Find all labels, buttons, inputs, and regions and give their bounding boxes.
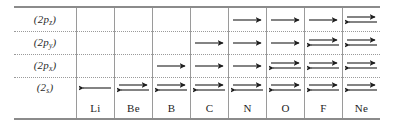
orbital-cell-b-2px xyxy=(153,54,190,77)
orbital-cell-ne-2pz xyxy=(343,8,380,31)
orbital-cell-be-2s xyxy=(115,77,152,98)
paired-electrons-icon xyxy=(305,77,342,98)
arrow-group xyxy=(155,12,189,28)
orbital-label-2py: (2py) xyxy=(34,36,57,50)
orbital-cell-b-2s xyxy=(153,77,190,98)
orbital-cell-f-2pz xyxy=(305,8,342,31)
paired-electrons-icon xyxy=(229,77,266,98)
element-symbol-cell-li: Li xyxy=(77,98,114,118)
orbital-cell-o-2pz xyxy=(267,8,304,31)
arrow-group xyxy=(231,80,265,96)
element-symbol-cell-f: F xyxy=(305,98,342,118)
paired-electrons-icon xyxy=(343,77,380,98)
paired-electrons-icon xyxy=(305,31,342,54)
single-electron-arrow-icon xyxy=(267,8,304,31)
label-column-footer xyxy=(14,98,76,118)
orbital-cell-li-2px xyxy=(77,54,114,77)
orbital-cell-be-2px xyxy=(115,54,152,77)
element-column-ne: Ne xyxy=(342,8,380,118)
orbital-label-cell-2pz: (2pz) xyxy=(14,8,76,31)
arrow-group xyxy=(345,58,379,74)
element-symbol-cell-b: B xyxy=(153,98,190,118)
single-electron-arrow-icon xyxy=(77,77,114,98)
element-symbol-label: B xyxy=(168,102,176,114)
element-column-c: C xyxy=(190,8,228,118)
element-symbol-cell-ne: Ne xyxy=(343,98,380,118)
paired-electrons-icon xyxy=(343,31,380,54)
orbital-label-cell-2px: (2px) xyxy=(14,54,76,77)
orbital-label-column: (2pz) (2py) (2px) (2s) xyxy=(14,8,76,118)
orbital-cell-f-2px xyxy=(305,54,342,77)
arrow-group xyxy=(117,58,151,74)
orbital-label-cell-2s: (2s) xyxy=(14,77,76,98)
element-symbol-label: Li xyxy=(90,102,100,114)
arrow-group xyxy=(231,12,265,28)
empty-orbital xyxy=(191,8,228,31)
element-column-n: N xyxy=(228,8,266,118)
arrow-group xyxy=(269,35,303,51)
single-electron-arrow-icon xyxy=(229,54,266,77)
bottom-rule xyxy=(14,118,380,120)
orbital-cell-o-2px xyxy=(267,54,304,77)
paired-electrons-icon xyxy=(267,77,304,98)
arrow-group xyxy=(155,80,189,96)
orbital-label-2px: (2px) xyxy=(34,59,57,73)
paired-electrons-icon xyxy=(343,8,380,31)
orbital-cell-c-2py xyxy=(191,31,228,54)
single-electron-arrow-icon xyxy=(191,54,228,77)
arrow-group xyxy=(79,80,113,96)
element-column-o: O xyxy=(266,8,304,118)
orbital-occupancy-figure: (2pz) (2py) (2px) (2s) LiBeBCNOFNe xyxy=(0,0,394,128)
empty-orbital xyxy=(153,8,190,31)
element-symbol-label: N xyxy=(243,102,251,114)
arrow-group xyxy=(155,58,189,74)
orbital-cell-n-2py xyxy=(229,31,266,54)
element-symbol-cell-c: C xyxy=(191,98,228,118)
paired-electrons-icon xyxy=(267,54,304,77)
orbital-cell-li-2s xyxy=(77,77,114,98)
arrow-group xyxy=(79,12,113,28)
element-column-f: F xyxy=(304,8,342,118)
orbital-cell-li-2py xyxy=(77,31,114,54)
arrow-group xyxy=(345,12,379,28)
arrow-group xyxy=(193,12,227,28)
element-symbol-label: Ne xyxy=(355,102,368,114)
orbital-label-2pz: (2pz) xyxy=(34,13,56,27)
element-symbol-cell-n: N xyxy=(229,98,266,118)
empty-orbital xyxy=(77,8,114,31)
empty-orbital xyxy=(115,31,152,54)
orbital-cell-c-2pz xyxy=(191,8,228,31)
arrow-group xyxy=(117,35,151,51)
orbital-label-2s: (2s) xyxy=(37,81,54,95)
orbital-cell-b-2py xyxy=(153,31,190,54)
orbital-cell-n-2s xyxy=(229,77,266,98)
arrow-group xyxy=(231,35,265,51)
row-separator-2 xyxy=(14,54,380,55)
element-column-b: B xyxy=(152,8,190,118)
arrow-group xyxy=(307,58,341,74)
arrow-group xyxy=(193,58,227,74)
orbital-cell-c-2px xyxy=(191,54,228,77)
arrow-group xyxy=(345,80,379,96)
arrow-group xyxy=(193,35,227,51)
empty-orbital xyxy=(77,54,114,77)
single-electron-arrow-icon xyxy=(267,31,304,54)
element-column-li: Li xyxy=(76,8,114,118)
single-electron-arrow-icon xyxy=(229,8,266,31)
orbital-cell-ne-2py xyxy=(343,31,380,54)
arrow-group xyxy=(79,58,113,74)
orbital-cell-be-2pz xyxy=(115,8,152,31)
arrow-group xyxy=(345,35,379,51)
arrow-group xyxy=(193,80,227,96)
empty-orbital xyxy=(115,54,152,77)
single-electron-arrow-icon xyxy=(229,31,266,54)
element-symbol-label: Be xyxy=(127,102,140,114)
arrow-group xyxy=(117,80,151,96)
paired-electrons-icon xyxy=(343,54,380,77)
orbital-cell-ne-2px xyxy=(343,54,380,77)
arrow-group xyxy=(269,58,303,74)
paired-electrons-icon xyxy=(305,54,342,77)
single-electron-arrow-icon xyxy=(153,54,190,77)
arrow-group xyxy=(155,35,189,51)
element-column-be: Be xyxy=(114,8,152,118)
